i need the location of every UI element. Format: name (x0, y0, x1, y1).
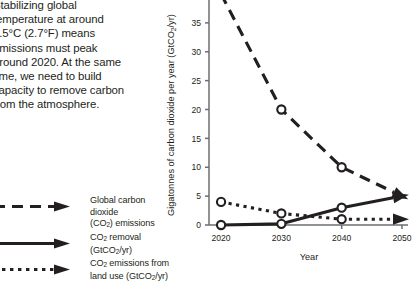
y-tick-label: 20 (191, 105, 201, 115)
legend-line-2b: ) emissions (110, 218, 155, 228)
legend-line-1c: /yr) (119, 245, 132, 255)
chart-legend: Global carbon dioxide (CO2) emissions CO… (0, 196, 174, 285)
blurb-line-1: Stabilizing global (0, 0, 171, 12)
legend-label-global-co2-emissions: Global carbon dioxide (CO2) emissions (90, 195, 174, 231)
legend-swatch-dashed-arrow (0, 198, 76, 209)
blurb-line-2: temperature at around (0, 12, 171, 26)
blurb-line-8: from the atmosphere. (0, 97, 171, 111)
axis-lines (209, 0, 408, 225)
y-tick-label: 35 (191, 18, 201, 28)
chart-svg: Gigatonnes of carbon dioxide per year (G… (163, 0, 413, 279)
y-tick-label: 15 (191, 134, 201, 144)
data-point (217, 198, 225, 206)
y-axis-ticks: 05101520253035 (191, 18, 209, 230)
legend-line-1: Global carbon dioxide (90, 195, 145, 217)
data-series-layer (217, 0, 411, 229)
y-axis-title-b: /yr) (166, 14, 176, 27)
legend-line-2a: (CO (90, 218, 106, 228)
data-point (277, 105, 285, 113)
blurb-line-5: around 2020. At the same (0, 55, 171, 69)
x-tick-label: 2030 (272, 233, 291, 243)
y-tick-label: 25 (191, 76, 201, 86)
legend-line-2a: land use (GtCO (90, 271, 152, 281)
legend-line-1b: emissions from (107, 258, 169, 268)
x-axis-title: Year (300, 252, 319, 262)
series-line (221, 198, 393, 225)
x-tick-label: 2050 (392, 233, 411, 243)
y-axis-title-a: Gigatonnes of carbon dioxide per year (G… (166, 31, 176, 216)
data-point (338, 163, 346, 171)
data-point (277, 220, 285, 228)
series-line (221, 0, 394, 192)
y-tick-label: 30 (191, 47, 201, 57)
blurb-line-4: emissions must peak (0, 41, 171, 55)
x-tick-label: 2040 (332, 233, 351, 243)
blurb-line-3: 1.5°C (2.7°F) means (0, 26, 171, 40)
legend-swatch-solid-arrow (0, 235, 76, 246)
series-0 (221, 0, 411, 204)
blurb-line-7: capacity to remove carbon (0, 83, 171, 97)
series-1 (217, 189, 410, 229)
y-axis-title: Gigatonnes of carbon dioxide per year (G… (166, 14, 177, 216)
y-tick-label: 10 (191, 162, 201, 172)
blurb-line-6: time, we need to build (0, 69, 171, 83)
x-axis-ticks: 2020203020402050 (211, 225, 411, 243)
legend-item-co2-emissions-land-use: CO2 emissions from land use (GtCO2/yr) (0, 259, 174, 285)
data-point (338, 215, 346, 223)
y-tick-label: 0 (196, 220, 201, 230)
y-tick-label: 5 (196, 191, 201, 201)
series-arrowhead (393, 214, 409, 225)
legend-label-co2-removal: CO2 removal (GtCO2/yr) (90, 232, 174, 258)
legend-label-co2-emissions-land-use: CO2 emissions from land use (GtCO2/yr) (90, 258, 174, 284)
legend-line-1a: CO (90, 258, 103, 268)
legend-item-global-co2-emissions: Global carbon dioxide (CO2) emissions (0, 196, 174, 224)
legend-line-1a: CO (90, 232, 103, 242)
data-point (277, 209, 285, 217)
x-tick-label: 2020 (211, 233, 230, 243)
legend-item-co2-removal: CO2 removal (GtCO2/yr) (0, 233, 174, 250)
legend-swatch-dotted-arrow (0, 261, 76, 272)
line-chart: Gigatonnes of carbon dioxide per year (G… (163, 0, 413, 279)
data-point (217, 221, 225, 229)
data-point (338, 204, 346, 212)
explanatory-text: Stabilizing global temperature at around… (0, 0, 171, 112)
